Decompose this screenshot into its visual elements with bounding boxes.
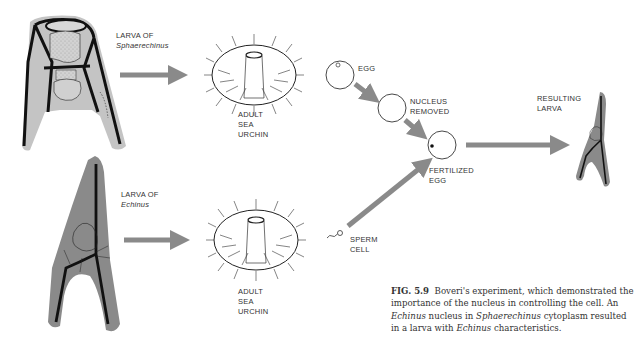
label-line: FERTILIZED (429, 166, 474, 176)
label-line: EGG (429, 176, 474, 186)
label-line: RESULTING (537, 94, 581, 104)
label-line: SEA (238, 120, 268, 130)
label-line: REMOVED (410, 107, 449, 117)
label-line: ADULT (238, 110, 268, 120)
label-line: URCHIN (238, 130, 268, 140)
label-line: LARVA OF (121, 190, 159, 200)
caption-species: Echinus (391, 311, 426, 321)
label-line: CELL (350, 245, 378, 255)
label-egg: EGG (358, 64, 375, 74)
larva-sphaerechinus-illustration (22, 16, 126, 151)
sea-urchin-bottom-illustration (206, 199, 306, 281)
label-sperm-cell: SPERM CELL (350, 235, 378, 255)
larva-echinus-illustration (48, 156, 120, 331)
sea-urchin-top-illustration (204, 34, 304, 116)
label-resulting-larva: RESULTING LARVA (537, 94, 581, 114)
label-line: LARVA OF (116, 31, 169, 41)
label-line: NUCLEUS (410, 97, 449, 107)
label-nucleus-removed: NUCLEUS REMOVED (410, 97, 449, 117)
label-line: ADULT (238, 287, 268, 297)
enucleated-egg-cell (378, 94, 406, 122)
label-adult-sea-urchin-bottom: ADULT SEA URCHIN (238, 287, 268, 317)
label-line-species: Sphaerechinus (116, 41, 169, 51)
label-line: URCHIN (238, 307, 268, 317)
label-line-species: Echinus (121, 200, 159, 210)
caption-species: Echinus (456, 323, 491, 333)
figure-caption: FIG. 5.9 Boveri's experiment, which demo… (391, 285, 635, 335)
arrows (120, 75, 560, 240)
label-adult-sea-urchin-top: ADULT SEA URCHIN (238, 110, 268, 140)
caption-text: characteristics. (491, 323, 561, 333)
caption-species: Sphaerechinus (476, 311, 541, 321)
label-fertilized-egg: FERTILIZED EGG (429, 166, 474, 186)
label-larva-sphaerechinus: LARVA OF Sphaerechinus (116, 31, 169, 51)
label-line: LARVA (537, 104, 581, 114)
caption-text: nucleus in (426, 311, 476, 321)
arrow-sperm-to-fertilized (348, 164, 425, 226)
label-line: SEA (238, 297, 268, 307)
label-larva-echinus: LARVA OF Echinus (121, 190, 159, 210)
arrow-removed-to-fertilized (405, 120, 420, 133)
label-line: SPERM (350, 235, 378, 245)
figure-number: FIG. 5.9 (391, 286, 429, 296)
egg-cell (326, 61, 354, 89)
sperm-cell (327, 231, 343, 239)
arrow-egg-to-removed (355, 84, 372, 97)
fertilized-egg-cell (428, 131, 456, 159)
